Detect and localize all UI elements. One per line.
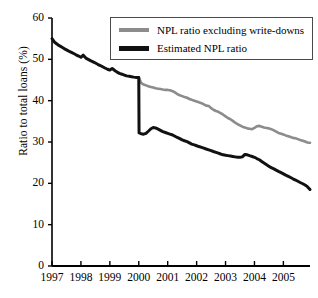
x-tick-label: 2005 [266,272,300,284]
legend-swatch-black [119,46,149,51]
legend-label-npl-excluding-writedowns: NPL ratio excluding write-downs [157,24,304,36]
y-tick-label: 20 [14,177,44,189]
chart-figure: Ratio to total loans (%) 0102030405060 1… [0,0,318,298]
y-tick-label: 10 [14,219,44,231]
legend-label-estimated-npl-ratio: Estimated NPL ratio [157,42,247,54]
series-line-1 [52,39,310,190]
y-tick-label: 50 [14,53,44,65]
legend-swatch-gray [119,28,149,32]
y-tick-label: 60 [14,12,44,24]
y-tick-label: 0 [14,260,44,272]
y-tick-label: 40 [14,95,44,107]
legend-item-npl-excluding-writedowns: NPL ratio excluding write-downs [119,22,304,38]
chart-legend: NPL ratio excluding write-downs Estimate… [110,17,313,60]
y-tick-label: 30 [14,136,44,148]
legend-item-estimated-npl-ratio: Estimated NPL ratio [119,40,247,56]
